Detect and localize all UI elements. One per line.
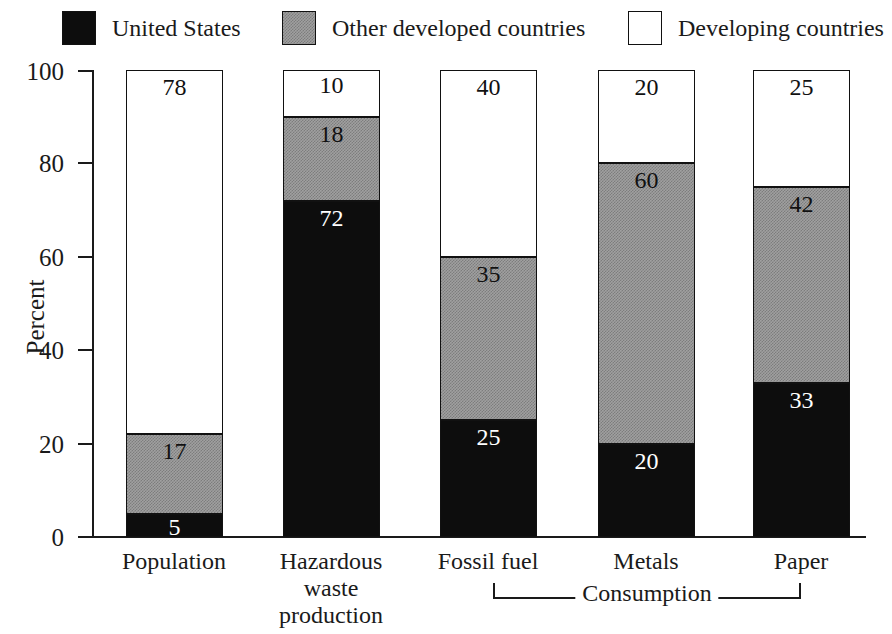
bar-segment-other-developed[interactable]: 17 bbox=[126, 434, 223, 513]
bar-segment-developing[interactable]: 40 bbox=[440, 70, 537, 257]
bar-value-developing: 78 bbox=[163, 71, 187, 99]
bracket-line-left bbox=[493, 597, 577, 599]
category-label-paper: Paper bbox=[706, 548, 892, 575]
bar-value-other-developed: 60 bbox=[635, 164, 659, 192]
y-tick-label-80: 80 bbox=[4, 151, 64, 176]
bar-value-other-developed: 18 bbox=[320, 118, 344, 146]
bar-segment-other-developed[interactable]: 18 bbox=[283, 117, 380, 201]
y-tick-mark-80 bbox=[78, 162, 94, 164]
bar-value-developing: 20 bbox=[635, 71, 659, 99]
y-tick-label-0: 0 bbox=[4, 525, 64, 550]
bar-paper[interactable]: 25 42 33 bbox=[753, 70, 850, 537]
bar-segment-united-states[interactable]: 25 bbox=[440, 420, 537, 537]
bar-population[interactable]: 78 17 5 bbox=[126, 70, 223, 537]
y-axis-line bbox=[92, 70, 94, 538]
bar-segment-other-developed[interactable]: 42 bbox=[753, 187, 850, 383]
y-tick-mark-20 bbox=[78, 443, 94, 445]
consumption-bracket: Consumption bbox=[493, 583, 801, 601]
bracket-line-right bbox=[717, 597, 801, 599]
bar-fossil-fuel[interactable]: 40 35 25 bbox=[440, 70, 537, 537]
bar-value-united-states: 25 bbox=[477, 421, 501, 449]
bracket-label: Consumption bbox=[575, 580, 718, 606]
bar-segment-developing[interactable]: 20 bbox=[598, 70, 695, 163]
bar-segment-united-states[interactable]: 72 bbox=[283, 201, 380, 537]
bar-segment-united-states[interactable]: 20 bbox=[598, 444, 695, 537]
bar-value-other-developed: 35 bbox=[477, 258, 501, 286]
bar-segment-developing[interactable]: 25 bbox=[753, 70, 850, 187]
bar-hazardous-waste-production[interactable]: 10 18 72 bbox=[283, 70, 380, 537]
bar-value-developing: 10 bbox=[320, 71, 344, 97]
bar-value-united-states: 5 bbox=[169, 515, 181, 539]
bar-segment-developing[interactable]: 10 bbox=[283, 70, 380, 117]
bar-metals[interactable]: 20 60 20 bbox=[598, 70, 695, 537]
bar-value-united-states: 72 bbox=[320, 202, 344, 230]
bar-segment-other-developed[interactable]: 35 bbox=[440, 257, 537, 420]
bar-segment-developing[interactable]: 78 bbox=[126, 70, 223, 434]
bracket-cap-right bbox=[799, 583, 801, 599]
y-tick-mark-0 bbox=[78, 536, 94, 538]
y-tick-label-20: 20 bbox=[4, 431, 64, 456]
bar-segment-other-developed[interactable]: 60 bbox=[598, 163, 695, 443]
bar-value-developing: 25 bbox=[790, 71, 814, 99]
y-tick-mark-60 bbox=[78, 256, 94, 258]
bar-value-other-developed: 42 bbox=[790, 188, 814, 216]
bar-value-other-developed: 17 bbox=[163, 435, 187, 463]
y-tick-mark-100 bbox=[78, 70, 94, 72]
bar-value-developing: 40 bbox=[477, 71, 501, 99]
stacked-bar-chart: 0 20 40 60 80 100 Percent 78 17 5 10 18 … bbox=[0, 0, 892, 634]
bar-segment-united-states[interactable]: 33 bbox=[753, 383, 850, 537]
y-axis-title: Percent bbox=[22, 257, 50, 377]
bar-value-united-states: 33 bbox=[790, 384, 814, 412]
bar-segment-united-states[interactable]: 5 bbox=[126, 514, 223, 537]
y-tick-mark-40 bbox=[78, 349, 94, 351]
bar-value-united-states: 20 bbox=[635, 445, 659, 473]
y-tick-label-100: 100 bbox=[4, 59, 64, 84]
